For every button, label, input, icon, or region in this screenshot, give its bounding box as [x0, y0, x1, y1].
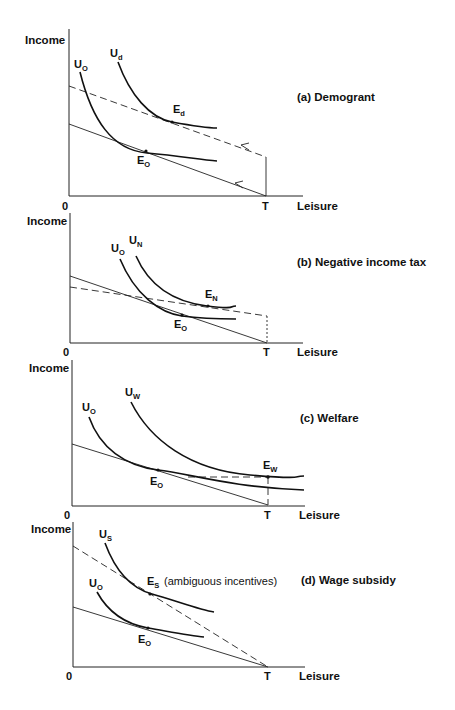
ambiguous-incentives-note: (ambiguous incentives)	[164, 575, 277, 587]
equilibrium-point-es	[148, 592, 151, 595]
origin-label: 0	[63, 346, 69, 358]
x-axis-label: Leisure	[297, 200, 338, 212]
panel-title-c: (c) Welfare	[300, 412, 359, 424]
indifference-curve-uo	[89, 417, 304, 490]
origin-label: 0	[64, 509, 70, 521]
panel-title-d: (d) Wage subsidy	[301, 574, 396, 586]
indifference-curve-ud	[118, 62, 217, 128]
t-label: T	[263, 346, 270, 358]
y-axis-label: Income	[31, 523, 71, 535]
equilibrium-point-eo	[156, 468, 159, 471]
panel-title-b: (b) Negative income tax	[297, 256, 427, 268]
curve-label-uo: UO	[82, 401, 96, 416]
curve-label-un: UN	[129, 234, 142, 249]
curve-label-ud: Ud	[110, 47, 123, 62]
indifference-curve-uo	[120, 259, 236, 319]
indifference-curve-un	[136, 256, 236, 308]
arrow-icon	[241, 143, 249, 150]
curve-label-uo: UO	[89, 577, 103, 592]
indifference-curve-uo	[80, 72, 217, 161]
equilibrium-point-eo	[146, 626, 149, 629]
x-axis-label: Leisure	[299, 509, 340, 521]
point-label-eo: EO	[150, 475, 163, 490]
t-label: T	[264, 670, 271, 682]
arrow-icon	[235, 181, 243, 188]
point-label-ed: Ed	[173, 103, 185, 118]
point-label-es: ES	[147, 575, 159, 590]
income-leisure-figure: Income 0 T Leisure UO Ud EO Ed (a) Demog…	[0, 0, 455, 710]
y-axis-label: Income	[27, 215, 67, 227]
panel-title-a: (a) Demogrant	[297, 91, 375, 103]
equilibrium-point-ew	[266, 475, 270, 479]
indifference-curve-uo	[97, 592, 204, 637]
y-axis-label: Income	[29, 362, 69, 374]
equilibrium-point-eo	[144, 149, 147, 152]
y-axis-label: Income	[25, 34, 65, 46]
x-axis-label: Leisure	[297, 346, 338, 358]
panel-a-demogrant: Income 0 T Leisure UO Ud EO Ed (a) Demog…	[25, 29, 375, 212]
indifference-curve-uw	[131, 402, 304, 478]
original-budget-line	[73, 607, 268, 667]
point-label-ew: EW	[263, 459, 278, 474]
x-axis-label: Leisure	[299, 670, 340, 682]
curve-label-uo: UO	[111, 242, 125, 257]
curve-label-us: US	[99, 528, 112, 543]
original-budget-line	[70, 276, 267, 343]
point-label-eo: EO	[138, 633, 151, 648]
origin-label: 0	[66, 670, 72, 682]
curve-label-uw: UW	[125, 386, 141, 401]
equilibrium-point-en	[206, 304, 209, 307]
point-label-en: EN	[205, 288, 218, 303]
panel-c-welfare: Income 0 T Leisure UO UW EO EW (c) Welfa…	[29, 360, 359, 521]
t-label: T	[264, 509, 271, 521]
curve-label-uo: UO	[74, 58, 88, 73]
t-label: T	[262, 200, 269, 212]
point-label-eo: EO	[174, 318, 187, 333]
equilibrium-point-ed	[170, 120, 173, 123]
equilibrium-point-eo	[180, 313, 183, 316]
wage-subsidy-budget-line	[73, 546, 268, 667]
origin-label: 0	[62, 200, 68, 212]
original-budget-line	[69, 124, 266, 196]
panel-b-negative-income-tax: Income 0 T Leisure UO UN EO EN (b) Negat…	[27, 213, 427, 358]
panel-d-wage-subsidy: Income 0 T Leisure UO US EO ES (ambiguou…	[31, 522, 396, 682]
point-label-eo: EO	[137, 154, 150, 169]
